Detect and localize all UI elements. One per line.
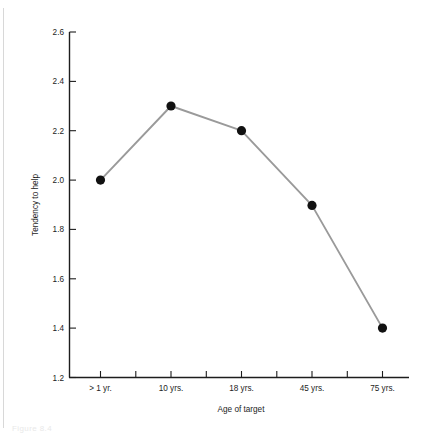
data-point-markers [96,101,387,332]
y-axis-tick-labels: 2.6 2.4 2.2 2.0 1.8 1.6 1.4 1.2 [53,28,65,383]
data-point-marker [378,324,387,333]
x-tick-label-c2: 18 yrs. [229,384,254,393]
y-tick-label-2-6: 2.6 [53,28,65,37]
y-axis-title: Tendency to help [31,174,40,236]
y-tick-label-1-6: 1.6 [53,275,65,284]
line-chart-svg: 2.6 2.4 2.2 2.0 1.8 1.6 1.4 1.2 > 1 yr. … [0,0,436,437]
x-tick-label-c0: > 1 yr. [89,384,112,393]
axis-spines [69,32,409,378]
figure-caption-partial: Figure 8.4 [12,424,52,433]
data-line-tendency-to-help [101,106,383,328]
y-tick-label-1-2: 1.2 [53,374,65,383]
x-tick-label-c4: 75 yrs. [370,384,395,393]
x-tick-label-c1: 10 yrs. [159,384,184,393]
data-point-marker [237,126,246,135]
y-tick-label-1-4: 1.4 [53,324,65,333]
y-axis-ticks [70,32,77,378]
data-point-marker [307,201,316,210]
y-tick-label-2-4: 2.4 [53,77,65,86]
y-tick-label-2-0: 2.0 [53,176,65,185]
x-axis-tick-labels: > 1 yr. 10 yrs. 18 yrs. 45 yrs. 75 yrs. [89,384,395,393]
data-point-marker [96,176,105,185]
chart-figure: 2.6 2.4 2.2 2.0 1.8 1.6 1.4 1.2 > 1 yr. … [0,0,436,437]
data-point-marker [166,101,175,110]
y-tick-label-2-2: 2.2 [53,127,65,136]
x-axis-ticks [101,371,383,378]
y-tick-label-1-8: 1.8 [53,225,65,234]
x-tick-label-c3: 45 yrs. [300,384,325,393]
x-axis-title: Age of target [218,405,266,414]
